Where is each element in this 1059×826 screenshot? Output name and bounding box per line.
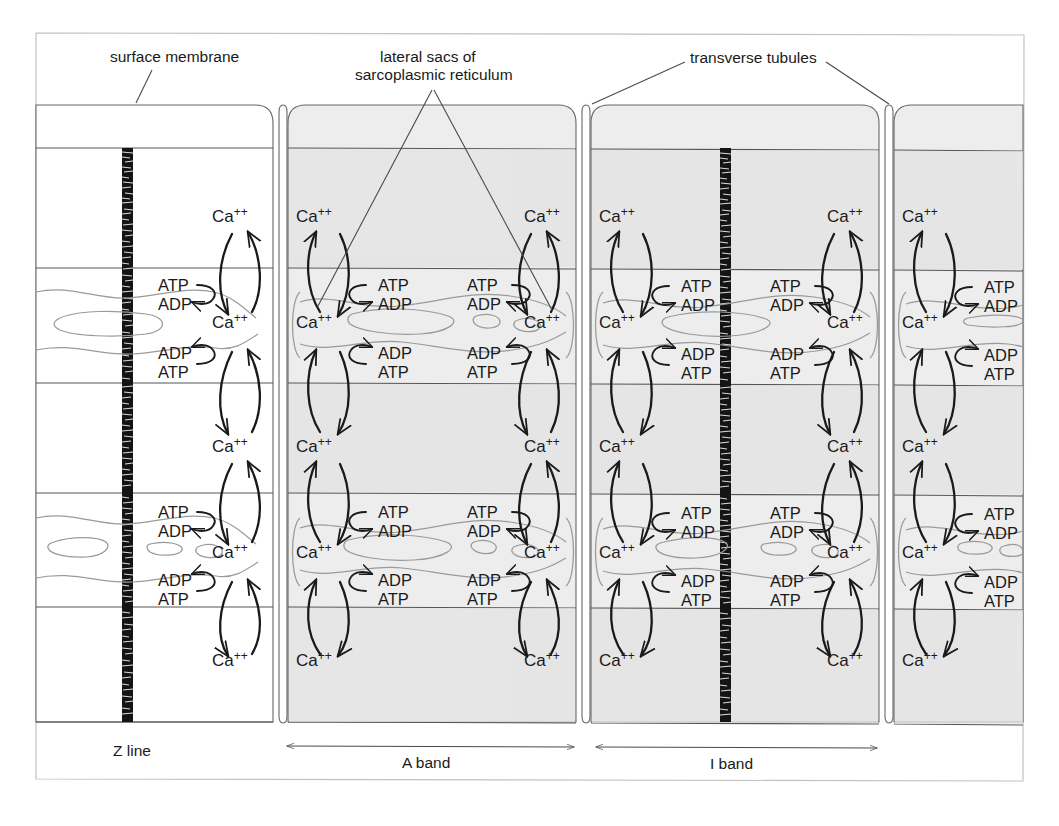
- atp-label: ATP: [984, 365, 1015, 383]
- surface-membrane-label: surface membrane: [110, 48, 239, 65]
- figure-canvas: Ca++ Ca++ Ca++ Ca++ Ca++ Ca++ Ca++ Ca++ …: [0, 0, 1059, 826]
- atp-label: ATP: [681, 277, 712, 295]
- atp-label: ATP: [467, 363, 498, 381]
- atp-label: ATP: [681, 504, 712, 522]
- adp-label: ADP: [158, 344, 192, 362]
- atp-label: ATP: [158, 276, 189, 294]
- surface-membrane-leader: [136, 70, 152, 103]
- adp-label: ADP: [467, 295, 501, 313]
- i-band-measure-arrow: [596, 747, 877, 748]
- adp-label: ADP: [158, 571, 192, 589]
- z-line-label: Z line: [113, 742, 151, 759]
- sarcoplasmic-reticulum-diagram: Ca++ Ca++ Ca++ Ca++ Ca++ Ca++ Ca++ Ca++ …: [0, 0, 1059, 826]
- adp-label: ADP: [467, 522, 501, 540]
- atp-label: ATP: [467, 276, 498, 294]
- atp-label: ATP: [770, 504, 801, 522]
- atp-label: ATP: [467, 503, 498, 521]
- adp-label: ADP: [770, 296, 804, 314]
- adp-label: ADP: [467, 344, 501, 362]
- adp-label: ADP: [770, 523, 804, 541]
- adp-label: ADP: [681, 296, 715, 314]
- atp-label: ATP: [158, 503, 189, 521]
- t-tubule-column-3: [885, 105, 893, 723]
- atp-label: ATP: [378, 503, 409, 521]
- adp-label: ADP: [681, 523, 715, 541]
- transverse-tubules-leaders: [592, 62, 889, 104]
- lateral-sacs-label-line1: lateral sacs of: [380, 48, 476, 65]
- atp-label: ATP: [467, 590, 498, 608]
- a-band-label: A band: [402, 754, 450, 771]
- atp-label: ATP: [770, 364, 801, 382]
- atp-label: ATP: [378, 590, 409, 608]
- i-band-label: I band: [710, 755, 753, 772]
- adp-label: ADP: [378, 522, 412, 540]
- a-band-measure-arrow: [287, 746, 574, 747]
- atp-label: ATP: [984, 592, 1015, 610]
- adp-label: ADP: [984, 297, 1018, 315]
- adp-label: ADP: [378, 295, 412, 313]
- atp-label: ATP: [681, 591, 712, 609]
- adp-label: ADP: [984, 346, 1018, 364]
- atp-label: ATP: [158, 363, 189, 381]
- adp-label: ADP: [378, 344, 412, 362]
- adp-label: ADP: [158, 295, 192, 313]
- adp-label: ADP: [681, 572, 715, 590]
- atp-label: ATP: [158, 590, 189, 608]
- atp-label: ATP: [378, 276, 409, 294]
- adp-label: ADP: [158, 522, 192, 540]
- atp-label: ATP: [770, 591, 801, 609]
- adp-label: ADP: [984, 524, 1018, 542]
- adp-label: ADP: [681, 345, 715, 363]
- adp-label: ADP: [378, 571, 412, 589]
- t-tubule-column-1: [279, 105, 287, 723]
- myofibril-column-1: [36, 105, 273, 722]
- atp-label: ATP: [681, 364, 712, 382]
- atp-label: ATP: [984, 278, 1015, 296]
- atp-label: ATP: [378, 363, 409, 381]
- lateral-sacs-label-line2: sarcoplasmic reticulum: [355, 66, 513, 83]
- transverse-tubules-label: transverse tubules: [690, 49, 817, 66]
- adp-label: ADP: [770, 572, 804, 590]
- atp-label: ATP: [770, 277, 801, 295]
- atp-label: ATP: [984, 505, 1015, 523]
- bottom-labels: Z line A band I band: [113, 742, 877, 772]
- adp-label: ADP: [467, 571, 501, 589]
- t-tubule-column-2: [582, 105, 590, 723]
- z-line-2: [720, 148, 731, 722]
- adp-label: ADP: [984, 573, 1018, 591]
- adp-label: ADP: [770, 345, 804, 363]
